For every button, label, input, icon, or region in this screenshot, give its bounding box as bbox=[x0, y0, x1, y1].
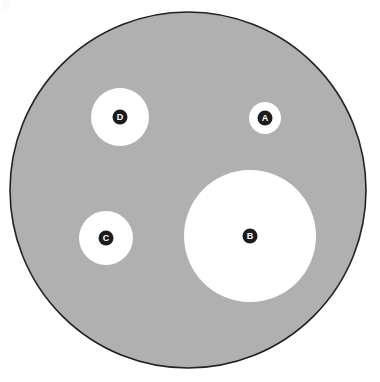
inner-circle-b[interactable]: B bbox=[184, 170, 316, 302]
inner-circle-b-label: B bbox=[247, 231, 254, 241]
inner-circle-c[interactable]: C bbox=[79, 211, 133, 265]
inner-circle-c-label: C bbox=[103, 233, 110, 243]
inner-circle-a-label: A bbox=[262, 113, 269, 123]
circle-diagram-figure: ||| ABCD bbox=[0, 0, 380, 382]
inner-circle-d[interactable]: D bbox=[91, 88, 149, 146]
inner-circle-a[interactable]: A bbox=[249, 102, 281, 134]
diagram-canvas: ABCD bbox=[0, 0, 380, 382]
outer-boundary-circle bbox=[10, 12, 366, 368]
inner-circle-d-label: D bbox=[117, 112, 124, 122]
